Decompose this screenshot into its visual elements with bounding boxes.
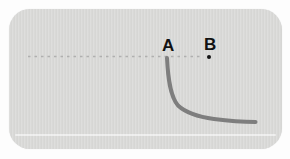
figure-canvas xyxy=(0,0,290,159)
point-b-label: B xyxy=(204,36,216,53)
point-a-label: A xyxy=(162,37,174,54)
figure: A B xyxy=(0,0,290,159)
decay-curve xyxy=(167,58,256,122)
